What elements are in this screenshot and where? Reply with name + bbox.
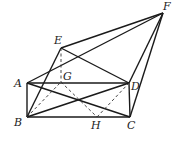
label-F: F [162,0,171,13]
segment-EF [61,13,163,48]
point-labels: A B C D E F G H [13,0,171,132]
label-A: A [13,77,22,90]
solid-lines [27,13,163,117]
geometry-diagram: A B C D E F G H [0,0,176,144]
segment-CF [130,13,163,117]
segment-AF [27,13,163,83]
label-G: G [63,70,72,83]
label-E: E [53,34,62,47]
label-C: C [127,119,136,132]
label-H: H [90,119,101,132]
label-B: B [13,116,22,129]
label-D: D [130,80,140,93]
segment-CD [129,83,130,117]
